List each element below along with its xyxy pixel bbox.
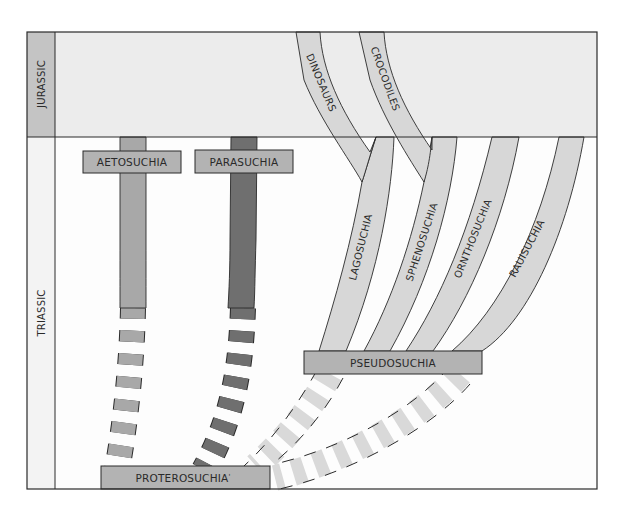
pseudosuchia-label: PSEUDOSUCHIA — [350, 357, 437, 369]
parasuchia-label: PARASUCHIA — [210, 156, 279, 168]
aetosuchia-label: AETOSUCHIA — [97, 156, 168, 168]
proterosuchia-label: PROTEROSUCHIA' — [135, 472, 230, 484]
era-label-jurassic: JURASSIC — [36, 60, 47, 109]
phylogeny-diagram: JURASSIC TRIASSIC AETOSUCHIA PARASUCHIA … — [0, 0, 622, 515]
era-label-triassic: TRIASSIC — [36, 289, 47, 337]
